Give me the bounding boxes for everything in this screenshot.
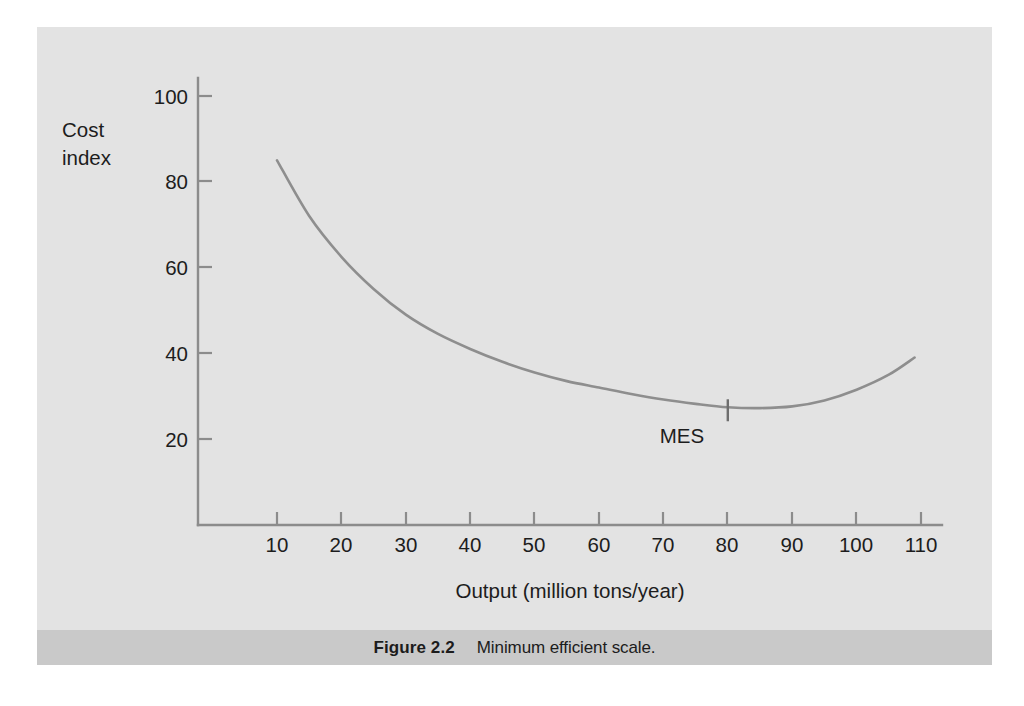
x-tick-label-70: 70	[652, 533, 675, 556]
cost-curve-chart: 100 80 60 40 20 10 20 30 40 50	[0, 0, 1024, 706]
figure-container: 100 80 60 40 20 10 20 30 40 50	[0, 0, 1024, 706]
y-axis-ticks	[198, 96, 212, 439]
x-tick-label-110: 110	[905, 533, 938, 556]
y-axis-title-line-2: index	[62, 146, 112, 169]
y-axis-title-line-1: Cost	[62, 118, 104, 141]
figure-caption: Figure 2.2 Minimum efficient scale.	[374, 638, 656, 658]
y-tick-label-100: 100	[154, 85, 188, 108]
y-tick-label-60: 60	[165, 256, 188, 279]
x-tick-label-20: 20	[330, 533, 353, 556]
y-axis-tick-labels: 100 80 60 40 20	[154, 85, 188, 451]
y-axis-title: Cost index	[62, 118, 112, 169]
x-tick-label-90: 90	[781, 533, 804, 556]
figure-caption-band: Figure 2.2 Minimum efficient scale.	[37, 630, 992, 665]
y-tick-label-40: 40	[165, 342, 188, 365]
x-tick-label-100: 100	[839, 533, 873, 556]
cost-curve-line	[277, 160, 915, 408]
figure-caption-label: Figure 2.2	[374, 638, 455, 658]
x-axis-title: Output (million tons/year)	[455, 579, 684, 602]
y-tick-label-80: 80	[165, 170, 188, 193]
x-tick-label-40: 40	[459, 533, 482, 556]
x-tick-label-30: 30	[395, 533, 418, 556]
x-tick-label-50: 50	[523, 533, 546, 556]
x-tick-label-80: 80	[716, 533, 739, 556]
mes-annotation-label: MES	[660, 424, 704, 447]
x-axis-tick-labels: 10 20 30 40 50 60 70 80 90 100 110	[266, 533, 938, 556]
y-tick-label-20: 20	[165, 428, 188, 451]
x-tick-label-60: 60	[588, 533, 611, 556]
figure-caption-text: Minimum efficient scale.	[477, 638, 656, 658]
x-tick-label-10: 10	[266, 533, 289, 556]
